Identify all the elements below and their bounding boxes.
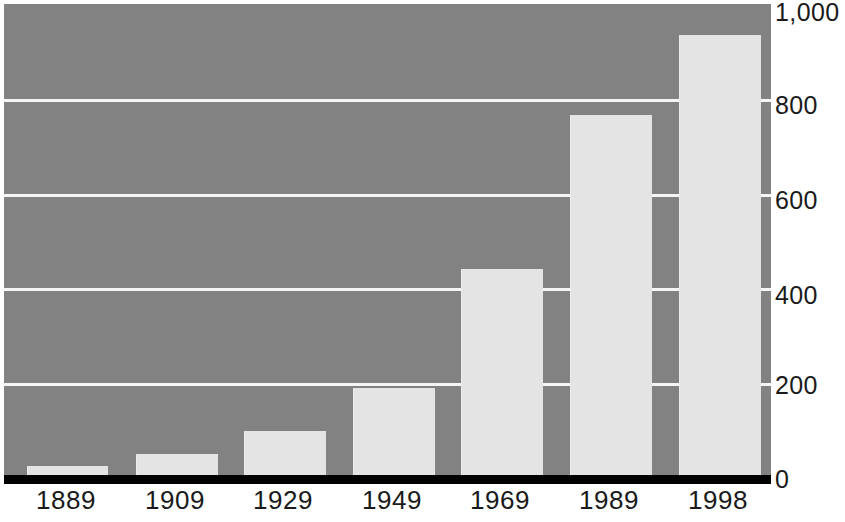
bars-layer <box>4 4 771 478</box>
x-tick-1998-label: 1998 <box>688 485 748 515</box>
x-tick-1889-label: 1889 <box>36 485 96 515</box>
x-tick-1889: 1889 <box>23 486 109 515</box>
y-tick-800-label: 800 <box>775 91 818 119</box>
bar-1989 <box>570 115 652 478</box>
x-tick-1989-label: 1989 <box>579 485 639 515</box>
y-tick-800: 800 <box>775 93 843 118</box>
bar-chart: 1,000 800 600 400 200 0 1889 1909 1929 1… <box>0 0 845 522</box>
y-axis: 1,000 800 600 400 200 0 <box>775 0 845 490</box>
x-tick-1929-label: 1929 <box>253 485 313 515</box>
y-tick-200-label: 200 <box>775 371 818 399</box>
bar-1929 <box>244 431 326 478</box>
x-tick-1969: 1969 <box>457 486 543 515</box>
bar-1998 <box>679 35 761 478</box>
x-tick-1949-label: 1949 <box>362 485 422 515</box>
x-tick-1989: 1989 <box>566 486 652 515</box>
plot-area <box>4 4 771 478</box>
bar-1949 <box>353 388 435 478</box>
y-tick-200: 200 <box>775 373 843 398</box>
x-tick-1929: 1929 <box>240 486 326 515</box>
x-tick-1949: 1949 <box>349 486 435 515</box>
x-tick-1998: 1998 <box>675 486 761 515</box>
y-tick-0-label: 0 <box>775 465 789 493</box>
y-tick-600-label: 600 <box>775 186 818 214</box>
x-tick-1909-label: 1909 <box>145 485 205 515</box>
bar-1969 <box>461 269 543 478</box>
y-tick-0: 0 <box>775 467 843 492</box>
x-tick-1969-label: 1969 <box>470 485 530 515</box>
y-tick-600: 600 <box>775 188 843 213</box>
x-tick-1909: 1909 <box>132 486 218 515</box>
y-tick-1000-label: 1,000 <box>775 0 840 26</box>
x-axis: 1889 1909 1929 1949 1969 1989 1998 <box>0 486 775 522</box>
y-tick-1000: 1,000 <box>775 0 843 25</box>
y-tick-400-label: 400 <box>775 281 818 309</box>
y-tick-400: 400 <box>775 283 843 308</box>
x-axis-baseline <box>4 475 771 484</box>
